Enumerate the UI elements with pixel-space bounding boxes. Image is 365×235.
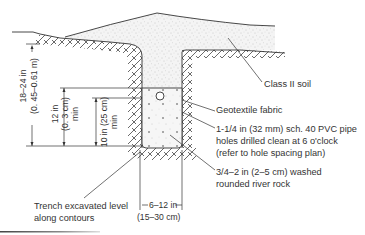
cover-depth-metric: (0. 3 cm) [60, 97, 70, 131]
pipe-label-line1: 1-1/4 in (32 mm) sch. 40 PVC pipe [216, 124, 357, 134]
class-ii-soil-label: Class II soil [264, 79, 311, 89]
native-soil-left [33, 34, 142, 148]
pipe-label-line2: holes drilled clean at 6 o'clock [216, 136, 338, 146]
trench-diagram: 18–24 in (0. 45–0.61 m) 12 in (0. 3 cm) … [0, 0, 365, 235]
cover-depth-min: min [70, 107, 80, 121]
rock-depth-label: 10 in (25 cm) [99, 97, 109, 147]
width-metric: (15–30 cm) [137, 212, 181, 222]
geotextile-fabric-label: Geotextile fabric [216, 105, 283, 115]
rock-label-line1: 3/4–2 in (2–5 cm) washed [216, 167, 322, 177]
width-label: 6–12 in [149, 200, 177, 210]
total-depth-label: 18–24 in [18, 69, 28, 102]
footer-rule [0, 231, 100, 233]
pipe-label-line3: (refer to hole spacing plan) [216, 148, 325, 158]
rock-label-line2: rounded river rock [216, 179, 290, 189]
total-depth-metric: (0. 45–0.61 m) [29, 58, 39, 114]
cover-depth-label: 12 in [50, 104, 60, 123]
trench-label-line1: Trench excavated level [34, 201, 128, 211]
trench-label-line2: along contours [34, 213, 95, 223]
pvc-pipe [156, 92, 164, 100]
rock-depth-min: min [109, 115, 119, 129]
trench-floor-hatch [128, 148, 196, 160]
